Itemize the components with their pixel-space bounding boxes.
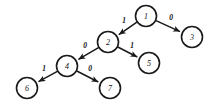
tree-edge-n1-to-n3	[156, 21, 180, 32]
tree-diagram-canvas: 100110 1325467	[0, 0, 214, 105]
tree-diagram-figure: 100110 1325467	[0, 0, 214, 105]
node-label-1: 1	[144, 12, 148, 21]
tree-edge-n2-to-n5	[118, 47, 137, 57]
tree-node-6[interactable]: 6	[17, 78, 38, 99]
tree-node-2[interactable]: 2	[98, 32, 119, 53]
node-label-5: 5	[147, 59, 151, 68]
tree-node-3[interactable]: 3	[182, 27, 203, 48]
node-label-4: 4	[65, 62, 69, 71]
tree-edge-n4-to-n6	[39, 71, 57, 81]
tree-node-4[interactable]: 4	[57, 56, 78, 77]
edge-label-n2-to-n5: 1	[130, 41, 134, 50]
tree-node-7[interactable]: 7	[100, 78, 121, 99]
node-label-3: 3	[189, 33, 194, 42]
tree-edge-n4-to-n7	[77, 71, 98, 82]
edge-label-n4-to-n6: 1	[42, 64, 46, 73]
node-label-2: 2	[106, 38, 110, 47]
tree-node-1[interactable]: 1	[136, 6, 157, 27]
node-label-6: 6	[25, 84, 29, 93]
tree-edge-n2-to-n4	[79, 48, 99, 60]
edge-label-n1-to-n3: 0	[169, 13, 173, 22]
tree-node-5[interactable]: 5	[139, 53, 160, 74]
edge-label-n4-to-n7: 0	[88, 64, 92, 73]
edge-label-n1-to-n2: 1	[122, 16, 126, 25]
nodes-group: 1325467	[17, 6, 203, 99]
edge-label-n2-to-n4: 0	[83, 41, 87, 50]
